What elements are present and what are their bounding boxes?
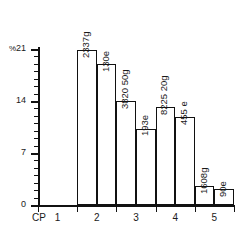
y-axis-major-tick xyxy=(31,101,38,103)
bars-layer: 2337g130e3820 50g193e8225 20g455 e1608g9… xyxy=(38,49,234,205)
bar xyxy=(116,101,136,205)
y-axis-major-tick xyxy=(31,49,38,51)
bar xyxy=(175,117,195,205)
bar xyxy=(156,107,176,205)
x-axis-tick xyxy=(77,205,78,212)
bar-value-label: 130e xyxy=(100,51,111,72)
x-axis-title: CP xyxy=(32,212,46,223)
bar-value-label: 8225 20g xyxy=(158,75,169,115)
y-axis-tick-label: 7 xyxy=(0,148,26,157)
x-axis-tick-label: 4 xyxy=(163,212,187,223)
x-axis-tick xyxy=(195,205,196,212)
x-axis-tick xyxy=(116,205,117,212)
bar xyxy=(136,129,156,206)
bar-chart: % 071421 12345 CP 2337g130e3820 50g193e8… xyxy=(0,0,239,239)
x-axis-tick-label: 5 xyxy=(202,212,226,223)
bar-value-label: 90e xyxy=(217,181,228,197)
bar xyxy=(97,64,117,205)
y-axis-major-tick xyxy=(31,205,38,207)
y-axis-tick-label: 14 xyxy=(0,96,26,105)
bar-value-label: 455 e xyxy=(178,101,189,125)
bar xyxy=(77,50,97,205)
x-axis-tick-label: 3 xyxy=(124,212,148,223)
y-axis-tick-label: 21 xyxy=(0,44,26,53)
x-axis-tick-label: 2 xyxy=(85,212,109,223)
x-axis-tick xyxy=(234,205,235,212)
bar-value-label: 3820 50g xyxy=(119,69,130,109)
bar-value-label: 1608g xyxy=(198,167,209,193)
bar-value-label: 2337g xyxy=(80,31,91,57)
y-axis-major-tick xyxy=(31,153,38,155)
x-axis-tick xyxy=(156,205,157,212)
bar-value-label: 193e xyxy=(139,115,150,136)
x-axis-line xyxy=(38,205,234,207)
x-axis-tick xyxy=(38,205,39,212)
x-axis-tick-label: 1 xyxy=(46,212,70,223)
y-axis-tick-label: 0 xyxy=(0,200,26,209)
